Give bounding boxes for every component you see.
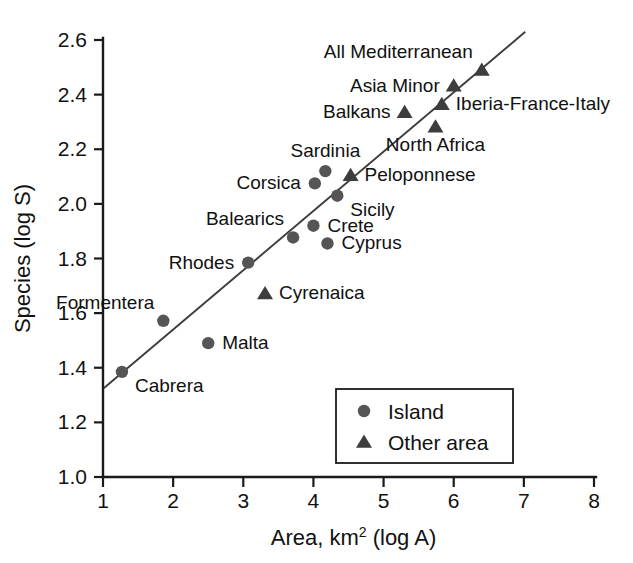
y-tick-label: 1.8 (58, 247, 87, 270)
x-tick-label: 7 (518, 489, 530, 512)
point-label: Formentera (56, 292, 155, 313)
point-label: Balearics (206, 208, 284, 229)
point-label: Cyprus (341, 232, 401, 253)
data-point-triangle (257, 286, 273, 299)
legend: IslandOther area (336, 389, 513, 463)
x-tick-label: 8 (588, 489, 600, 512)
data-point-circle (331, 189, 343, 201)
x-tick-label: 3 (237, 489, 249, 512)
point-labels: CabreraFormenteraMaltaRhodesBalearicsCre… (56, 41, 610, 396)
data-point-triangle (446, 78, 462, 91)
data-point-circle (319, 165, 331, 177)
data-point-circle (202, 337, 214, 349)
point-label: Malta (222, 332, 269, 353)
data-point-circle (157, 315, 169, 327)
point-label: Asia Minor (350, 75, 440, 96)
scatter-plot-svg: 1.01.21.41.61.82.02.22.42.612345678 Cabr… (0, 0, 633, 563)
data-point-circle (242, 256, 254, 268)
x-tick-label: 5 (378, 489, 390, 512)
data-point-circle (321, 237, 333, 249)
x-tick-label: 2 (167, 489, 179, 512)
data-point-circle (307, 220, 319, 232)
y-tick-label: 1.0 (58, 465, 87, 488)
species-area-chart: 1.01.21.41.61.82.02.22.42.612345678 Cabr… (0, 0, 633, 563)
y-tick-label: 2.6 (58, 28, 87, 51)
point-label: Corsica (236, 172, 301, 193)
point-label: North Africa (386, 134, 486, 155)
point-label: Sardinia (290, 140, 360, 161)
regression-line (104, 32, 526, 388)
data-point-circle (287, 231, 299, 243)
x-tick-label: 1 (97, 489, 109, 512)
y-tick-label: 1.2 (58, 410, 87, 433)
trend-line (104, 32, 526, 388)
point-label: All Mediterranean (324, 41, 473, 62)
data-point-circle (309, 177, 321, 189)
y-tick-label: 2.0 (58, 192, 87, 215)
data-point-triangle (397, 105, 413, 118)
y-tick-label: 2.4 (58, 83, 88, 106)
data-point-circle (116, 366, 128, 378)
point-label: Cyrenaica (279, 282, 365, 303)
legend-label: Other area (388, 431, 489, 454)
x-tick-label: 6 (448, 489, 460, 512)
data-point-triangle (427, 119, 443, 132)
point-label: Balkans (323, 101, 391, 122)
x-axis-title: Area, km2 (log A) (271, 524, 437, 550)
point-label: Sicily (350, 199, 395, 220)
point-label: Cabrera (135, 375, 204, 396)
legend-label: Island (388, 400, 444, 423)
point-label: Rhodes (169, 252, 235, 273)
x-tick-label: 4 (308, 489, 320, 512)
y-tick-label: 2.2 (58, 137, 87, 160)
legend-circle-icon (358, 405, 370, 417)
y-axis-title: Species (log S) (10, 184, 35, 333)
point-label: Peloponnese (365, 164, 476, 185)
y-tick-label: 1.4 (58, 356, 88, 379)
point-label: Iberia-France-Italy (456, 93, 611, 114)
